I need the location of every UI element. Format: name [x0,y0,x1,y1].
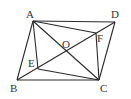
label-f: F [97,32,103,44]
label-o: O [62,38,70,50]
segment-af [33,21,96,33]
label-a: A [26,8,34,20]
label-b: B [10,82,17,94]
label-c: C [100,82,107,94]
segment-ab [17,21,33,80]
label-d: D [111,8,119,20]
segments [17,21,115,80]
geometry-diagram: A D O F E B C [0,0,131,99]
segment-da [33,21,115,22]
segment-ce [38,69,99,80]
segment-bd [17,22,115,80]
label-e: E [28,57,35,69]
segment-cd [99,22,115,80]
